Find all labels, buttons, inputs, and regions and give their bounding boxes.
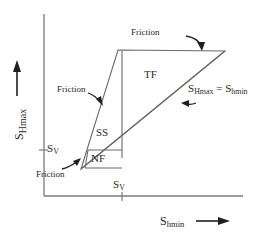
y-axis-arrow-head [13,60,21,72]
region-label-tf: TF [144,69,157,80]
y-axis-title-base: S [12,133,26,140]
x-axis-title: Shmin [160,215,184,227]
annotation-friction-left: Friction [57,85,86,94]
diagonal-equation-label: SHmax = Shmin [188,83,248,94]
y-axis-tick-label-sv: SV [47,143,59,154]
y-tick-sub: V [53,147,59,156]
diagonal-left-sub: Hmax [194,87,213,96]
annotation-friction-top: Friction [131,28,160,37]
region-label-nf: NF [91,153,105,164]
friction-bottom-arrow-head [73,158,81,166]
diagonal-label-arrow-head [181,100,189,107]
x-axis-arrow-head [218,217,230,225]
x-axis-title-sub: hmin [167,219,185,229]
friction-top-arrow-head [197,42,205,51]
y-axis-title: SHmax [12,109,28,140]
annotation-friction-bottom: Friction [36,170,65,179]
diagonal-right-sub: hmin [231,87,247,96]
region-label-ss: SS [96,127,108,138]
stress-polygon-figure: SHmax Shmin SV SV NF SS TF Friction Fric… [0,0,276,237]
x-axis-title-base: S [160,214,167,228]
friction-bottom-arrow-curve [62,162,76,169]
diagonal-equals: = [216,82,222,94]
friction-left-arrow-head [96,96,103,106]
x-tick-sub: V [119,183,125,192]
y-axis-title-sub: Hmax [17,109,28,133]
x-axis-tick-label-sv: SV [113,179,125,190]
